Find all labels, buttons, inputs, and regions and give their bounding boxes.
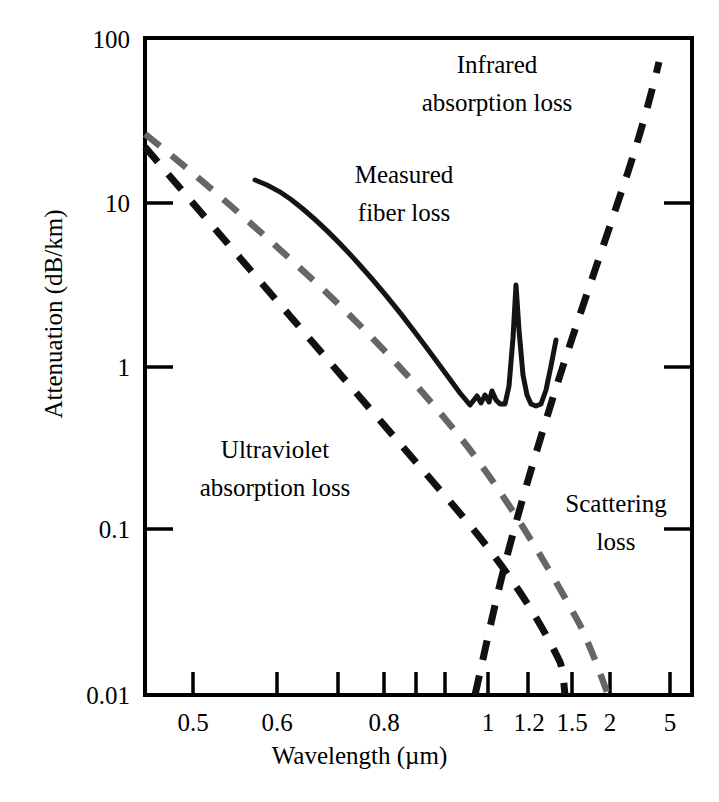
x-tick-label-0-8: 0.8 bbox=[368, 709, 399, 736]
curve-ultraviolet-absorption-loss bbox=[145, 147, 565, 695]
annotation-measured-line1: Measured bbox=[355, 161, 454, 188]
annotation-scattering-line1: Scattering bbox=[565, 490, 667, 517]
annotation-infrared-line2: absorption loss bbox=[422, 89, 573, 116]
x-tick-label-0-6: 0.6 bbox=[261, 709, 292, 736]
y-tick-label-100: 100 bbox=[93, 26, 131, 53]
curve-infrared-absorption-loss bbox=[475, 62, 659, 695]
x-tick-label-1-5: 1.5 bbox=[556, 709, 587, 736]
y-tick-label-1: 1 bbox=[118, 354, 131, 381]
x-axis-title: Wavelength (µm) bbox=[0, 742, 719, 770]
x-tick-label-5: 5 bbox=[664, 709, 677, 736]
chart-canvas: 100 10 1 0.1 0.01 0.5 0.6 0.8 1 1.2 1.5 … bbox=[0, 0, 719, 802]
x-tick-label-1-2: 1.2 bbox=[513, 709, 544, 736]
plot-frame bbox=[145, 38, 692, 695]
y-axis-title: Attenuation (dB/km) bbox=[40, 164, 68, 464]
annotation-scattering-line2: loss bbox=[597, 528, 636, 555]
y-tick-label-0-1: 0.1 bbox=[99, 516, 130, 543]
x-tick-label-0-5: 0.5 bbox=[177, 709, 208, 736]
x-tick-label-2: 2 bbox=[604, 709, 617, 736]
annotation-ultraviolet-line2: absorption loss bbox=[200, 474, 351, 501]
annotation-infrared-line1: Infrared bbox=[457, 51, 538, 78]
x-axis-ticks bbox=[193, 38, 670, 695]
figure-attenuation-vs-wavelength: 100 10 1 0.1 0.01 0.5 0.6 0.8 1 1.2 1.5 … bbox=[0, 0, 719, 802]
x-tick-label-1: 1 bbox=[482, 709, 495, 736]
annotation-measured-line2: fiber loss bbox=[358, 199, 450, 226]
y-tick-label-0-01: 0.01 bbox=[86, 682, 130, 709]
annotation-ultraviolet-line1: Ultraviolet bbox=[221, 436, 329, 463]
y-tick-label-10: 10 bbox=[105, 190, 130, 217]
